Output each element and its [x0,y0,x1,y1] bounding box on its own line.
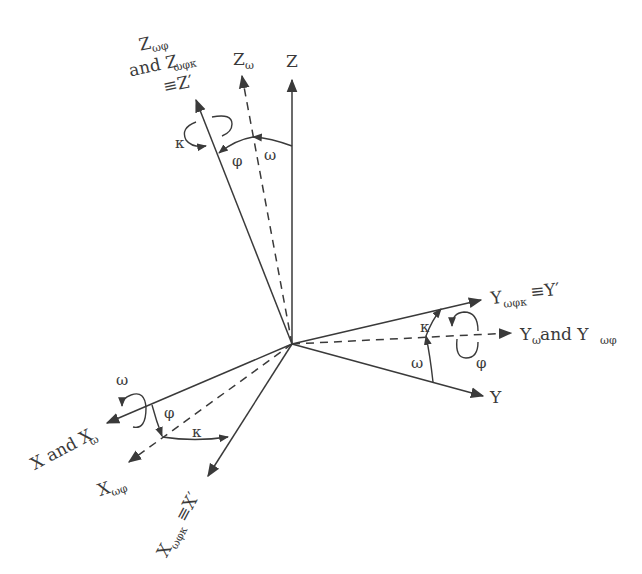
kappa-rotation-z-lower [184,122,206,146]
label-omega-z: ω [264,146,276,164]
label-x-omega-phi: X ωφ [95,472,130,503]
svg-text:≡X′: ≡X′ [171,489,203,525]
svg-text:≡Y′: ≡Y′ [529,279,560,302]
svg-text:Z: Z [233,49,245,69]
label-omega-y: ω [411,354,423,372]
svg-text:X and X: X and X [27,424,96,474]
phi-rotation-y-lower [457,339,478,358]
label-z-prime: Z ωφ and Z ωφκ ≡Z′ [122,24,202,103]
svg-text:ω: ω [245,59,254,72]
phi-arc-z [219,137,253,153]
svg-text:ωφ: ωφ [600,334,617,347]
phi-rotation-y-upper [452,312,478,331]
omega-arc-z [253,137,292,146]
rotation-axes-diagram: Z Z ω Z ωφ and Z ωφκ ≡Z′ ω φ κ Y ωφκ ≡Y′… [0,0,642,574]
kappa-rotation-z [212,116,232,136]
x-prime-axis [208,344,292,476]
phi-arc-x [152,405,162,436]
svg-text:ωφκ: ωφκ [168,524,191,551]
label-phi-z: φ [232,152,243,170]
label-y-omega: Y ω and Y ωφ [519,324,617,347]
label-phi-y: φ [476,354,487,372]
label-z-omega: Z ω [233,49,254,72]
omega-arc-y [426,336,433,382]
label-x: X and X ω [27,423,101,478]
svg-text:ω: ω [87,433,101,449]
svg-text:and Y: and Y [540,324,589,344]
label-y-prime: Y ωφκ ≡Y′ [488,279,561,312]
label-y: Y [489,387,502,407]
label-kappa-y: κ [420,318,430,336]
y-axis [292,344,483,396]
svg-text:Y: Y [489,287,504,308]
omega-rotation-x [122,395,131,406]
svg-text:ωφ: ωφ [109,482,129,500]
z-prime-axis [196,100,292,344]
z-omega-axis [242,76,292,344]
svg-text:ωφκ: ωφκ [503,295,528,310]
svg-text:≡Z′: ≡Z′ [161,71,195,97]
label-z: Z [286,51,298,71]
omega-rotation-x-loop [131,394,146,427]
label-x-prime: X ωφκ ≡X′ [152,489,206,562]
label-kappa-z: κ [175,134,185,152]
label-kappa-x: κ [192,423,202,441]
svg-text:Y: Y [519,324,532,344]
label-phi-x: φ [164,404,175,422]
label-omega-x: ω [116,371,128,389]
